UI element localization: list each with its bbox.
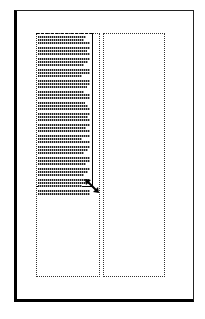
text-line: [38, 94, 90, 96]
text-line: [38, 72, 90, 74]
text-line: [38, 152, 84, 154]
text-line: [38, 168, 90, 170]
text-line: [38, 50, 87, 52]
text-line: [38, 182, 90, 184]
text-line: [38, 105, 88, 107]
text-line: [38, 91, 84, 93]
text-line: [38, 135, 90, 137]
text-line: [38, 138, 82, 140]
text-line: [38, 171, 88, 173]
text-line: [38, 83, 90, 85]
text-line: [38, 127, 86, 129]
text-line: [38, 69, 90, 71]
text-line: [38, 39, 84, 41]
text-line: [38, 160, 90, 162]
text-line: [38, 119, 90, 121]
text-line: [38, 116, 88, 118]
text-line: [38, 47, 90, 49]
text-line: [38, 174, 84, 176]
text-line: [38, 64, 84, 66]
text-line: [38, 163, 86, 165]
text-line: [38, 42, 90, 44]
text-line: [38, 61, 88, 63]
diagonal-resize-icon[interactable]: [84, 178, 100, 194]
text-line: [38, 36, 86, 38]
text-line: [38, 53, 90, 55]
text-line: [38, 86, 87, 88]
text-line: [38, 80, 90, 82]
right-column-guide: [103, 33, 165, 277]
text-line: [38, 124, 90, 126]
text-line: [38, 185, 82, 187]
text-line: [38, 108, 90, 110]
text-line: [38, 75, 82, 77]
text-line: [38, 193, 90, 195]
text-line: [38, 113, 90, 115]
greeked-text: [38, 36, 90, 196]
text-line: [38, 58, 90, 60]
text-line: [38, 141, 90, 143]
text-line: [38, 157, 90, 159]
text-line: [38, 179, 90, 181]
text-line: [38, 146, 90, 148]
text-line: [38, 130, 90, 132]
text-line: [38, 102, 85, 104]
text-line: [38, 97, 90, 99]
text-line: [38, 149, 88, 151]
text-line: [38, 190, 90, 192]
